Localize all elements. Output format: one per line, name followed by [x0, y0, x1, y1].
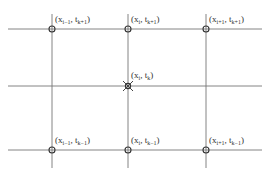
node-label: (xi, tk−1)	[131, 135, 160, 146]
node-label: (xi−1, tk−1)	[55, 135, 90, 146]
node-label: (xi, tk+1)	[131, 14, 160, 25]
node-label: (xi−1, tk+1)	[55, 14, 90, 25]
node-label: (xi, tk)	[131, 70, 153, 81]
node-label: (xi+1, tk−1)	[209, 135, 244, 146]
stencil-diagram: (xi−1, tk+1) (xi, tk+1) (xi+1, tk+1) (xi…	[0, 0, 268, 170]
node-label: (xi+1, tk+1)	[209, 14, 244, 25]
